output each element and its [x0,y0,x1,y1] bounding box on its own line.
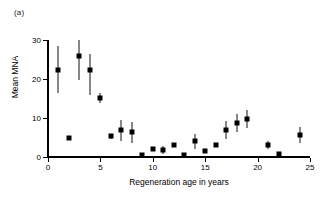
data-point [119,128,124,133]
x-tick-label: 20 [253,163,262,172]
y-tick-label: 30 [21,36,41,45]
x-tick [205,158,206,162]
y-tick [43,79,47,80]
x-tick [258,158,259,162]
x-tick-label: 10 [148,163,157,172]
y-tick [43,157,47,158]
y-tick-label: 0 [21,153,41,162]
data-point [224,127,229,132]
data-point [108,134,113,139]
y-axis-label: Mean MNA [10,44,20,110]
y-axis-line [47,40,49,158]
data-point [161,147,166,152]
data-point [192,139,197,144]
data-point [98,96,103,101]
data-point [129,130,134,135]
data-point [203,148,208,153]
x-axis-label: Regeneration age in years [48,177,310,187]
y-tick-label: 20 [21,75,41,84]
x-tick-label: 15 [201,163,210,172]
x-axis-line [48,156,310,158]
data-point [245,117,250,122]
data-point [182,153,187,158]
data-point [234,120,239,125]
x-tick [153,158,154,162]
x-tick-label: 0 [46,163,50,172]
scatter-plot: 0510152025 0102030 Regeneration age in y… [0,0,334,198]
data-point [276,151,281,156]
figure-panel-a: (a) 0510152025 0102030 Regeneration age … [0,0,334,198]
data-point [213,142,218,147]
y-tick [43,118,47,119]
data-point [77,53,82,58]
x-tick-label: 25 [306,163,315,172]
x-tick-label: 5 [98,163,102,172]
error-bar [89,54,90,95]
data-point [297,133,302,138]
y-tick-label: 10 [21,114,41,123]
data-point [171,142,176,147]
data-point [150,147,155,152]
data-point [140,152,145,157]
x-tick [48,158,49,162]
error-bar [79,40,80,80]
data-point [66,136,71,141]
x-tick [100,158,101,162]
x-tick [310,158,311,162]
data-point [56,67,61,72]
y-tick [43,40,47,41]
data-point [266,142,271,147]
data-point [87,68,92,73]
